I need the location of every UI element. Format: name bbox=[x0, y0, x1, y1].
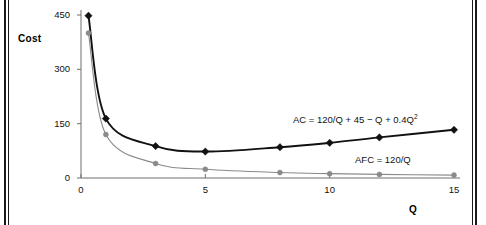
data-point-marker-afc bbox=[377, 172, 382, 177]
data-point-marker-afc bbox=[452, 173, 457, 178]
data-point-marker-ac bbox=[276, 144, 283, 151]
x-tick-label: 10 bbox=[315, 184, 345, 195]
data-point-marker-ac bbox=[326, 139, 333, 146]
data-point-marker-ac bbox=[85, 12, 92, 19]
x-tick-label: 5 bbox=[190, 184, 220, 195]
data-point-marker-afc bbox=[153, 161, 158, 166]
series-annotation-ac: AC = 120/Q + 45 − Q + 0.4Q2 bbox=[293, 113, 418, 125]
series-line-ac bbox=[88, 16, 454, 152]
data-point-marker-afc bbox=[277, 170, 282, 175]
data-point-marker-afc bbox=[103, 132, 108, 137]
data-point-marker-afc bbox=[203, 167, 208, 172]
series-annotation-afc: AFC = 120/Q bbox=[355, 154, 411, 165]
x-tick-label: 15 bbox=[439, 184, 469, 195]
series-layer bbox=[85, 12, 458, 177]
x-tick-label: 0 bbox=[66, 184, 96, 195]
y-tick-label: 150 bbox=[40, 118, 70, 129]
data-point-marker-ac bbox=[450, 126, 457, 133]
data-point-marker-afc bbox=[86, 31, 91, 36]
y-tick-label: 300 bbox=[40, 63, 70, 74]
data-point-marker-ac bbox=[376, 134, 383, 141]
data-point-marker-ac bbox=[202, 148, 209, 155]
series-annotation-ac-exponent: 2 bbox=[414, 113, 418, 120]
y-axis-title: Cost bbox=[18, 33, 41, 44]
data-point-marker-ac bbox=[152, 143, 159, 150]
series-annotation-ac-text: AC = 120/Q + 45 − Q + 0.4Q bbox=[293, 114, 414, 125]
figure-canvas: Cost Q AC = 120/Q + 45 − Q + 0.4Q2 AFC =… bbox=[0, 0, 486, 225]
y-tick-label: 450 bbox=[40, 9, 70, 20]
data-point-marker-afc bbox=[327, 171, 332, 176]
y-tick-label: 0 bbox=[40, 172, 70, 183]
axes-layer bbox=[77, 10, 460, 178]
x-axis-title: Q bbox=[409, 204, 417, 215]
